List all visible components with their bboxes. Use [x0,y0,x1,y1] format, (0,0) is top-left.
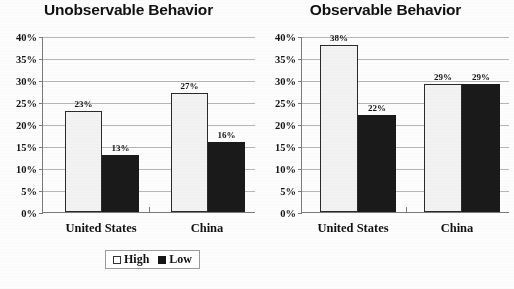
plot-area-observable: 40% 35% 30% 25% 20% 15% 10% 5% 0% [301,37,509,213]
plot-area-unobservable: 40% 35% 30% 25% 20% 15% 10% 5% 0% [42,37,255,213]
ytick-label-40: 40% [275,32,296,43]
bar-china-low[interactable]: 16% [208,142,245,212]
ytick-0 [298,213,302,214]
bar-group-china: 29% 29% [406,37,510,212]
legend-swatch-high-icon [113,256,121,264]
bar-label-china-low: 16% [218,130,236,140]
chart-title-observable: Observable Behavior [257,1,514,19]
legend-unobservable: High Low [105,250,200,269]
ytick-label-15: 15% [16,142,37,153]
chart-title-unobservable: Unobservable Behavior [0,1,257,19]
bar-group-united-states: 38% 22% [302,37,406,212]
ytick-label-25: 25% [275,98,296,109]
ytick-label-35: 35% [16,54,37,65]
ytick-label-0: 0% [21,208,37,219]
bar-united-states-low[interactable]: 13% [102,155,139,212]
bar-label-china-high: 27% [181,81,199,91]
ytick-label-10: 10% [16,164,37,175]
ytick-label-30: 30% [275,76,296,87]
chart-panel-unobservable: Unobservable Behavior 40% 35% 30% 25% 20… [0,0,257,289]
ytick-label-10: 10% [275,164,296,175]
bar-united-states-high[interactable]: 23% [65,111,102,212]
ytick-label-20: 20% [275,120,296,131]
bar-china-high[interactable]: 29% [424,84,462,212]
chart-panel-observable: Observable Behavior 40% 35% 30% 25% 20% … [257,0,514,289]
legend-label-high: High [124,252,149,267]
bar-group-china: 27% 16% [149,37,256,212]
category-label-china: China [441,221,474,236]
bar-group-united-states: 23% 13% [43,37,149,212]
bar-united-states-high[interactable]: 38% [320,45,358,212]
bar-china-high[interactable]: 27% [171,93,208,212]
ytick-label-0: 0% [280,208,296,219]
ytick-label-25: 25% [16,98,37,109]
bar-label-united-states-low: 22% [368,103,386,113]
category-label-china: China [191,221,224,236]
ytick-label-35: 35% [275,54,296,65]
category-label-united-states: United States [317,221,388,236]
bar-label-united-states-high: 38% [330,33,348,43]
category-label-united-states: United States [65,221,136,236]
ytick-label-30: 30% [16,76,37,87]
legend-item-low[interactable]: Low [158,252,192,267]
ytick-label-5: 5% [21,186,37,197]
ytick-label-5: 5% [280,186,296,197]
legend-label-low: Low [169,252,192,267]
bar-label-united-states-high: 23% [75,99,93,109]
bar-united-states-low[interactable]: 22% [358,115,396,212]
legend-swatch-low-icon [158,256,166,264]
bar-label-china-low: 29% [472,72,490,82]
bar-label-united-states-low: 13% [112,143,130,153]
ytick-label-15: 15% [275,142,296,153]
legend-item-high[interactable]: High [113,252,149,267]
ytick-label-40: 40% [16,32,37,43]
ytick-0 [39,213,43,214]
bar-china-low[interactable]: 29% [462,84,500,212]
figure-two-bar-charts: Unobservable Behavior 40% 35% 30% 25% 20… [0,0,514,289]
ytick-label-20: 20% [16,120,37,131]
bar-label-china-high: 29% [434,72,452,82]
